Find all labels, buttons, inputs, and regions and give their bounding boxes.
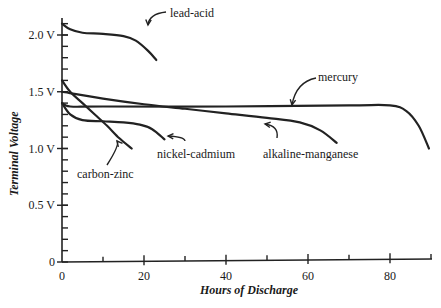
y-tick-label: 0 (49, 255, 55, 269)
x-tick-label: 0 (59, 269, 65, 283)
series-label-nickel-cadmium: nickel-cadmium (157, 147, 236, 161)
y-tick-label: 2.0 V (29, 28, 56, 42)
y-tick-label: 1.0 V (29, 142, 56, 156)
annotation-arrow-carbon-zinc (107, 141, 118, 165)
y-axis-title: Terminal Voltage (7, 111, 21, 196)
arrowhead-icon (117, 141, 123, 147)
series-label-alkaline-manganese: alkaline-manganese (263, 147, 358, 161)
x-axis (62, 259, 432, 262)
series-curves (62, 24, 429, 149)
x-tick-label: 80 (384, 269, 396, 283)
series-nickel-cadmium (62, 103, 165, 139)
series-lead-acid (62, 24, 156, 60)
series-alkaline-manganese (62, 92, 337, 143)
x-tick-label: 40 (220, 269, 232, 283)
battery-discharge-chart: 00.5 V1.0 V1.5 V2.0 V020406080 lead-acid… (0, 0, 441, 308)
series-annotations: lead-acidmercuryalkaline-manganesenickel… (77, 6, 358, 181)
series-label-lead-acid: lead-acid (170, 6, 214, 20)
series-label-mercury: mercury (318, 70, 358, 84)
y-tick-label: 1.5 V (29, 85, 56, 99)
series-label-carbon-zinc: carbon-zinc (77, 167, 134, 181)
x-axis-title: Hours of Discharge (199, 283, 299, 297)
annotation-arrow-lead-acid (148, 12, 166, 25)
y-tick-label: 0.5 V (29, 198, 56, 212)
x-tick-label: 60 (302, 269, 314, 283)
axes (62, 18, 432, 262)
series-carbon-zinc (62, 80, 132, 148)
x-tick-label: 20 (138, 269, 150, 283)
